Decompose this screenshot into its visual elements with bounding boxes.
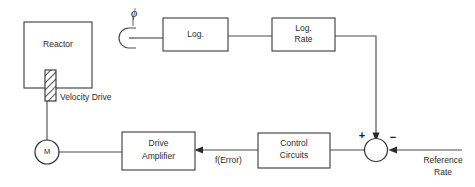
arrowhead-into-drive-amplifier [195,146,204,153]
reference-rate-label-line1: Reference [411,155,475,165]
log-rate-label-line1: Log. [295,23,312,33]
control-circuits-label-line1: Control [280,138,308,148]
error-signal-label: f(Error) [215,155,242,165]
wire-log-rate-to-summing-junction [335,36,376,133]
log-rate-label-line2: Rate [295,34,313,44]
arrowhead-into-summing-junction-right [389,146,398,153]
reactor-block [24,22,92,88]
block-diagram-canvas: Reactor Log. Log. Rate + − Control Circu… [0,0,475,187]
reactor-label: Reactor [43,39,73,49]
velocity-drive-label: Velocity Drive [60,92,112,102]
drive-amplifier-label-line1: Drive [149,138,169,148]
summing-junction-plus-sign: + [359,129,365,141]
reference-rate-label-line2: Rate [411,167,475,177]
flux-symbol-label: ϕ [126,6,142,21]
control-rod-icon [45,70,56,101]
drive-amplifier-label-line2: Amplifier [142,151,175,161]
summing-junction-minus-sign: − [390,131,396,143]
summing-junction-circle [365,139,388,162]
motor-label: M [44,147,50,156]
control-circuits-label-line2: Circuits [280,150,308,160]
log-label: Log. [187,29,204,39]
